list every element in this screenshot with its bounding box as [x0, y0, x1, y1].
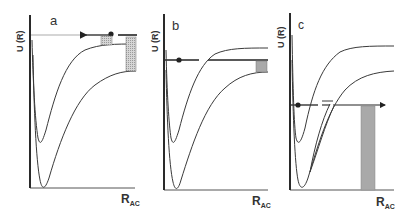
- potential-energy-diagram: a U (R) RAC b U (R) RAC c: [0, 0, 406, 215]
- panel-label-a: a: [50, 13, 58, 28]
- lower-potential-curve-b: [166, 70, 268, 189]
- x-axis-label-c: RAC: [376, 195, 395, 210]
- trajectory-path-c: [310, 104, 334, 172]
- particle-dot-b: [176, 57, 181, 62]
- panel-a: a U (R) RAC: [15, 13, 140, 207]
- shaded-region-a-1: [101, 36, 112, 45]
- upper-potential-curve-a: [32, 40, 136, 142]
- shaded-region-c: [361, 106, 375, 190]
- panel-c: c U (R) RAC: [276, 13, 395, 210]
- panel-b: b U (R) RAC: [150, 14, 271, 209]
- x-axis-label-a: RAC: [121, 192, 140, 207]
- shaded-region-a-2: [126, 37, 136, 71]
- y-axis-label-a: U (R): [15, 31, 25, 53]
- lower-potential-curve-c: [292, 60, 394, 187]
- panel-label-b: b: [172, 18, 179, 33]
- y-axis-label-b: U (R): [150, 31, 160, 53]
- y-axis-label-c: U (R): [276, 27, 286, 49]
- x-axis-label-b: RAC: [252, 194, 271, 209]
- shaded-region-b: [256, 61, 267, 72]
- upper-potential-curve-c: [292, 35, 394, 142]
- panel-label-c: c: [298, 18, 304, 32]
- particle-dot-c: [295, 102, 300, 107]
- upper-potential-curve-b: [166, 48, 268, 142]
